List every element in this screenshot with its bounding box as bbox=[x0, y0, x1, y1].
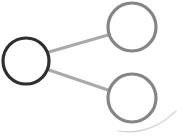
target-top-node-circle bbox=[108, 3, 156, 51]
source-node-circle bbox=[3, 38, 49, 84]
share-icon bbox=[0, 0, 177, 136]
connector-line-top bbox=[49, 35, 108, 52]
connector-line-bottom bbox=[49, 70, 108, 90]
target-bottom-node-circle bbox=[108, 74, 156, 122]
share-icon-canvas: share-icon bbox=[0, 0, 177, 136]
